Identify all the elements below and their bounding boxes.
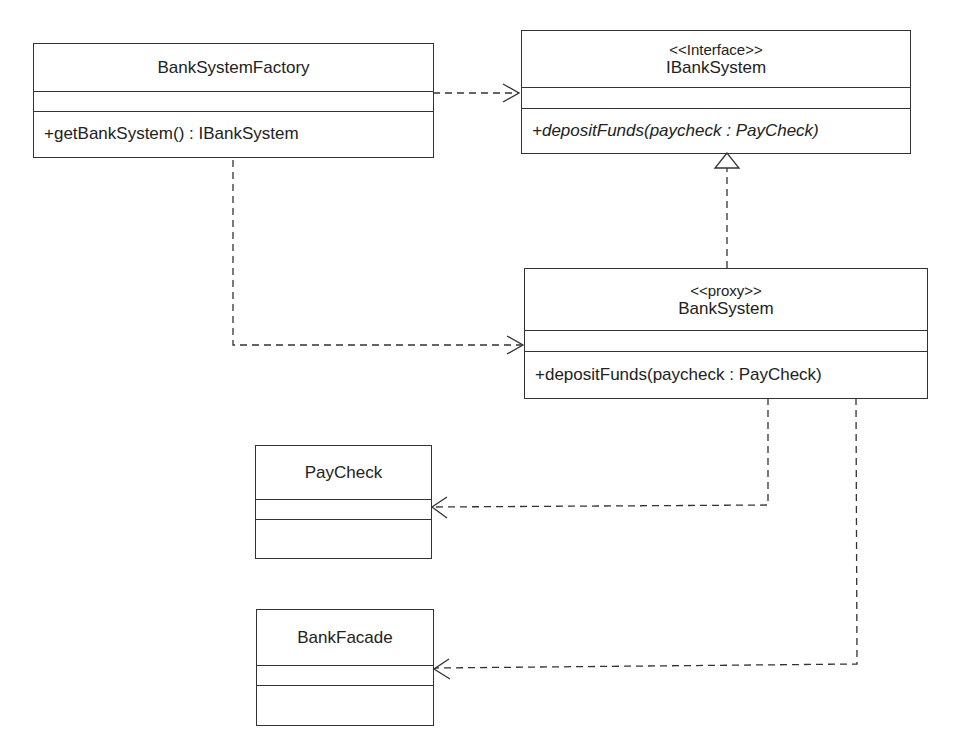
open-arrowhead-icon xyxy=(434,659,450,679)
stereotype-label: <<proxy>> xyxy=(690,282,762,299)
class-bank-system[interactable]: <<proxy>> BankSystem +depositFunds(paych… xyxy=(524,268,928,399)
operations-compartment xyxy=(257,686,433,724)
class-name-compartment: BankSystemFactory xyxy=(34,44,433,92)
class-ibank-system[interactable]: <<Interface>> IBankSystem +depositFunds(… xyxy=(521,30,911,154)
class-name-compartment: BankFacade xyxy=(257,610,433,666)
class-name-compartment: <<proxy>> BankSystem xyxy=(525,269,927,331)
class-name: PayCheck xyxy=(305,463,382,482)
dependency-banksystem-to-bankfacade xyxy=(434,398,857,679)
uml-class-diagram: BankSystemFactory +getBankSystem() : IBa… xyxy=(0,0,956,755)
class-name-compartment: <<Interface>> IBankSystem xyxy=(522,31,910,88)
stereotype-label: <<Interface>> xyxy=(669,41,762,58)
operations-compartment: +depositFunds(paycheck : PayCheck) xyxy=(522,109,910,152)
attributes-compartment xyxy=(522,88,910,109)
class-bank-facade[interactable]: BankFacade xyxy=(256,609,434,726)
class-name-compartment: PayCheck xyxy=(256,446,431,500)
dependency-factory-to-ibanksystem xyxy=(433,84,519,102)
dependency-banksystem-to-paycheck xyxy=(432,398,768,518)
class-bank-system-factory[interactable]: BankSystemFactory +getBankSystem() : IBa… xyxy=(33,43,434,158)
operations-compartment: +depositFunds(paycheck : PayCheck) xyxy=(525,352,927,397)
hollow-triangle-icon xyxy=(715,153,739,168)
class-paycheck[interactable]: PayCheck xyxy=(255,445,432,559)
attributes-compartment xyxy=(256,500,431,520)
class-name: BankSystemFactory xyxy=(157,58,309,77)
class-name: IBankSystem xyxy=(666,58,766,77)
dependency-factory-to-banksystem xyxy=(233,160,523,354)
operations-compartment: +getBankSystem() : IBankSystem xyxy=(34,112,433,156)
attributes-compartment xyxy=(257,666,433,686)
operation-deposit-funds: +depositFunds(paycheck : PayCheck) xyxy=(525,352,927,397)
operations-compartment xyxy=(256,520,431,557)
attributes-compartment xyxy=(525,331,927,352)
operation-deposit-funds: +depositFunds(paycheck : PayCheck) xyxy=(522,109,910,152)
attributes-compartment xyxy=(34,92,433,112)
class-name: BankFacade xyxy=(297,628,392,647)
realization-banksystem-to-ibanksystem xyxy=(715,153,739,268)
operation-get-bank-system: +getBankSystem() : IBankSystem xyxy=(34,112,433,156)
class-name: BankSystem xyxy=(678,299,773,318)
